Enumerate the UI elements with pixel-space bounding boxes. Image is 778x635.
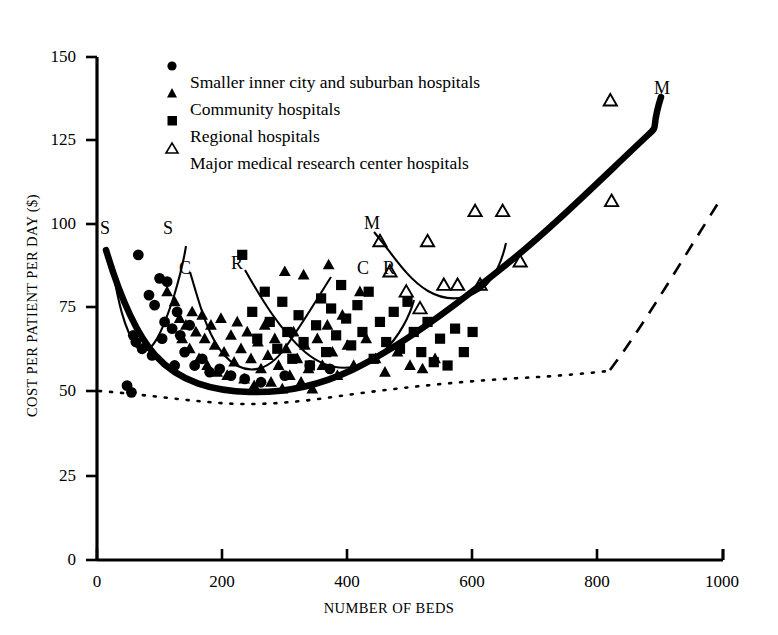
data-point-filled-triangle [231, 316, 243, 327]
data-point-filled-square [298, 337, 308, 347]
filled-square-icon [168, 116, 178, 126]
data-point-filled-triangle [265, 376, 277, 387]
data-point-filled-square [277, 297, 287, 307]
data-point-open-triangle [421, 235, 434, 246]
data-point-filled-triangle [323, 259, 335, 270]
data-point-filled-square [326, 303, 336, 313]
data-point-filled-square [459, 347, 469, 357]
data-point-filled-triangle [196, 309, 208, 320]
data-point-filled-triangle [186, 306, 198, 317]
data-point-filled-triangle [404, 359, 416, 370]
data-point-filled-square [364, 287, 374, 297]
data-point-filled-square [282, 327, 292, 337]
data-point-filled-circle [147, 350, 158, 361]
y-axis-ticks [86, 57, 97, 560]
data-point-filled-square [389, 307, 399, 317]
data-point-open-triangle [400, 285, 413, 296]
data-point-filled-square [287, 354, 297, 364]
data-point-filled-square [336, 280, 346, 290]
data-point-filled-square [450, 324, 460, 334]
data-point-filled-circle [133, 249, 144, 260]
data-point-filled-square [395, 344, 405, 354]
data-point-filled-circle [126, 387, 137, 398]
data-point-filled-square [272, 344, 282, 354]
data-point-open-triangle [383, 265, 396, 276]
data-point-filled-square [409, 327, 419, 337]
data-point-filled-square [429, 357, 439, 367]
data-point-filled-square [237, 250, 247, 260]
data-point-filled-triangle [269, 332, 281, 343]
data-point-filled-triangle [225, 329, 237, 340]
data-point-open-triangle [496, 205, 509, 216]
data-point-open-triangle [413, 302, 426, 313]
x-axis-ticks [97, 549, 597, 560]
data-point-open-triangle [604, 94, 617, 105]
data-point-filled-square [381, 337, 391, 347]
data-point-filled-triangle [417, 363, 429, 374]
data-point-filled-square [422, 317, 432, 327]
filled-triangle-icon [167, 88, 177, 98]
open-triangle-icon [166, 143, 178, 153]
data-point-filled-triangle [321, 319, 333, 330]
data-point-filled-circle [137, 343, 148, 354]
data-point-filled-circle [144, 290, 155, 301]
data-point-filled-square [435, 334, 445, 344]
data-point-filled-square [375, 317, 385, 327]
data-point-filled-triangle [295, 376, 307, 387]
data-point-filled-square [346, 340, 356, 350]
plot-canvas [0, 0, 778, 635]
data-point-filled-square [352, 300, 362, 310]
data-point-filled-square [321, 347, 331, 357]
data-point-filled-square [402, 297, 412, 307]
data-point-filled-square [442, 360, 452, 370]
data-point-filled-triangle [199, 332, 211, 343]
data-point-filled-square [265, 317, 275, 327]
data-point-open-triangle [605, 195, 618, 206]
data-point-filled-square [293, 310, 303, 320]
data-point-filled-triangle [245, 353, 257, 364]
data-point-filled-square [341, 313, 351, 323]
legend-markers [166, 61, 178, 153]
data-point-filled-circle [149, 300, 160, 311]
data-point-filled-square [316, 293, 326, 303]
data-point-filled-triangle [311, 332, 323, 343]
data-points [122, 94, 619, 398]
data-point-filled-triangle [241, 326, 253, 337]
envelope-curve-dashed [610, 197, 722, 370]
data-point-filled-triangle [262, 349, 274, 360]
data-point-open-triangle [437, 278, 450, 289]
data-point-filled-square [357, 327, 367, 337]
data-point-filled-triangle [209, 339, 221, 350]
data-point-filled-square [260, 287, 270, 297]
data-point-filled-triangle [169, 296, 181, 307]
data-point-filled-triangle [279, 265, 291, 276]
data-point-filled-circle [169, 360, 180, 371]
chart-figure: COST PER PATIENT PER DAY ($) NUMBER OF B… [0, 0, 778, 635]
data-point-filled-circle [162, 276, 173, 287]
data-point-filled-square [468, 327, 478, 337]
data-point-open-triangle [451, 278, 464, 289]
data-point-filled-triangle [298, 269, 310, 280]
data-point-filled-triangle [235, 343, 247, 354]
data-point-filled-square [369, 354, 379, 364]
data-point-filled-triangle [215, 312, 227, 323]
data-point-filled-circle [157, 333, 168, 344]
data-point-filled-square [331, 330, 341, 340]
filled-circle-icon [167, 61, 176, 70]
data-point-open-triangle [469, 205, 482, 216]
data-point-filled-square [311, 320, 321, 330]
data-point-filled-triangle [379, 366, 391, 377]
data-point-filled-square [305, 360, 315, 370]
data-point-filled-square [247, 307, 257, 317]
data-point-filled-triangle [161, 286, 173, 297]
data-point-filled-square [252, 334, 262, 344]
data-point-filled-square [416, 347, 426, 357]
